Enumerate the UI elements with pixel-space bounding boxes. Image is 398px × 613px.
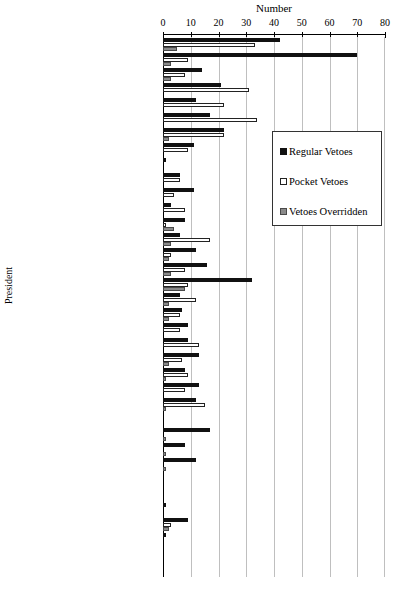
bar-override	[163, 377, 166, 381]
bar-regular	[163, 308, 182, 312]
x-tick-label-20: 20	[207, 17, 231, 29]
legend-swatch-regular-icon	[280, 148, 287, 155]
bar-override	[163, 77, 171, 81]
bar-regular	[163, 158, 166, 162]
legend-label-pocket: Pocket Vetoes	[289, 176, 348, 187]
x-tick-label-60: 60	[318, 17, 342, 29]
bar-regular	[163, 98, 196, 102]
bar-override	[163, 137, 169, 141]
bar-override	[163, 257, 169, 261]
bar-regular	[163, 38, 280, 42]
bar-regular	[163, 518, 188, 522]
bar-pocket	[163, 223, 166, 227]
bar-override	[163, 317, 169, 321]
bar-pocket	[163, 358, 182, 362]
bar-regular	[163, 368, 185, 372]
legend-swatch-override-icon	[280, 208, 287, 215]
chart-row: GW Bush (2005-2006)	[163, 502, 385, 517]
bar-regular	[163, 173, 180, 177]
bar-pocket	[163, 103, 224, 107]
bar-override	[163, 242, 171, 246]
chart-row: Reagan (1983-1984)**	[163, 337, 385, 352]
chart-row: Eisenhower (1957-1958)**	[163, 112, 385, 127]
bar-override	[163, 287, 185, 291]
plot-area: Truman (1947-1948)*Truman (1949-1950)Tru…	[163, 37, 385, 577]
bar-pocket	[163, 58, 188, 62]
bar-override	[163, 227, 174, 231]
chart-row: Obama (2009-2010)	[163, 532, 385, 547]
x-tick-label-10: 10	[179, 17, 203, 29]
bar-override	[163, 302, 169, 306]
legend-label-regular: Regular Vetoes	[289, 146, 353, 157]
chart-row: GW Bush (2001-2002)**	[163, 472, 385, 487]
chart-row: GHW Bush (1989-1990)**	[163, 382, 385, 397]
chart-row: Nixon (1973-1974)**	[163, 247, 385, 262]
chart-legend: Regular Vetoes Pocket Vetoes Vetoes Over…	[272, 131, 382, 226]
x-tick-label-50: 50	[290, 17, 314, 29]
bar-regular	[163, 203, 171, 207]
chart-row: Clinton (1995-1996)*	[163, 427, 385, 442]
bar-regular	[163, 128, 224, 132]
chart-row: Eisenhower (1953-1954)	[163, 82, 385, 97]
x-tick-label-0: 0	[151, 17, 175, 29]
chart-row: Truman (1949-1950)	[163, 52, 385, 67]
bar-override	[163, 467, 166, 471]
bar-pocket	[163, 523, 171, 527]
veto-bar-chart: Number President 01020304050607080 Truma…	[0, 0, 398, 613]
chart-row: Clinton (1993-1994)	[163, 412, 385, 427]
bar-regular	[163, 248, 196, 252]
bar-regular	[163, 383, 199, 387]
bar-override	[163, 362, 169, 366]
bar-pocket	[163, 313, 180, 317]
chart-row: Carter (1977-1978)	[163, 292, 385, 307]
chart-row: GW Bush (2003-2004)	[163, 487, 385, 502]
chart-row: Ford (1975-1976)**	[163, 277, 385, 292]
bar-regular	[163, 353, 199, 357]
chart-row: Obama (2011-2012)*	[163, 547, 385, 562]
bar-regular	[163, 533, 166, 537]
bar-override	[163, 47, 177, 51]
bar-pocket	[163, 343, 199, 347]
chart-row: Ford (1974)**	[163, 262, 385, 277]
bar-regular	[163, 503, 166, 507]
chart-row: Eisenhower (1955-1956)**	[163, 97, 385, 112]
legend-item-regular-vetoes: Regular Vetoes	[280, 146, 353, 157]
bar-pocket	[163, 283, 188, 287]
bar-pocket	[163, 118, 257, 122]
bar-override	[163, 407, 166, 411]
chart-row: Truman (1947-1948)*	[163, 37, 385, 52]
x-tick-mark-80	[385, 32, 386, 38]
legend-item-vetoes-overridden: Vetoes Overridden	[280, 206, 367, 217]
bar-pocket	[163, 268, 185, 272]
bar-pocket	[163, 253, 171, 257]
bar-regular	[163, 323, 188, 327]
bar-regular	[163, 293, 180, 297]
chart-row: Clinton (1999-2000)*	[163, 457, 385, 472]
bar-pocket	[163, 133, 224, 137]
bar-override	[163, 452, 166, 456]
bar-pocket	[163, 193, 174, 197]
bar-pocket	[163, 178, 180, 182]
chart-row: Truman (1951-1952)	[163, 67, 385, 82]
x-axis-title: Number	[163, 2, 385, 14]
plot-right-border	[384, 37, 385, 577]
bar-regular	[163, 53, 357, 57]
chart-row: Obama (2013-2014)*	[163, 562, 385, 577]
bar-pocket	[163, 148, 188, 152]
legend-swatch-pocket-icon	[280, 178, 287, 185]
bar-regular	[163, 458, 196, 462]
bar-override	[163, 437, 166, 441]
x-tick-label-30: 30	[234, 17, 258, 29]
bar-pocket	[163, 238, 210, 242]
bar-regular	[163, 338, 188, 342]
chart-row: GW Bush (2007-2008)**	[163, 517, 385, 532]
bar-pocket	[163, 88, 249, 92]
bar-pocket	[163, 328, 180, 332]
bar-regular	[163, 143, 194, 147]
bar-pocket	[163, 373, 188, 377]
bar-override	[163, 62, 171, 66]
bar-override	[163, 272, 171, 276]
chart-row: GHW Bush (1991-1992)**	[163, 397, 385, 412]
bar-pocket	[163, 73, 185, 77]
bar-pocket	[163, 403, 205, 407]
